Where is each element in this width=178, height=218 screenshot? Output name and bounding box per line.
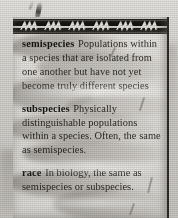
zigzag-wave-ornament-icon — [13, 19, 167, 34]
scanned-page-screenshot: semispeciesPopulations within a species … — [0, 0, 178, 218]
header-ornament-band — [13, 19, 167, 34]
glossary-entry: raceIn biology, the same as semispecies … — [22, 166, 162, 194]
paper-scratch — [129, 203, 135, 215]
glossary-page: semispeciesPopulations within a species … — [13, 17, 169, 218]
entry-headword: subspecies — [22, 103, 70, 114]
glossary-entry-list: semispeciesPopulations within a species … — [22, 37, 162, 194]
entry-headword: semispecies — [22, 38, 74, 49]
glossary-entry: subspeciesPhysically distinguishable pop… — [22, 102, 162, 158]
glossary-entry: semispeciesPopulations within a species … — [22, 37, 162, 93]
entry-headword: race — [22, 167, 42, 178]
paper-highlight-streak — [13, 199, 167, 207]
